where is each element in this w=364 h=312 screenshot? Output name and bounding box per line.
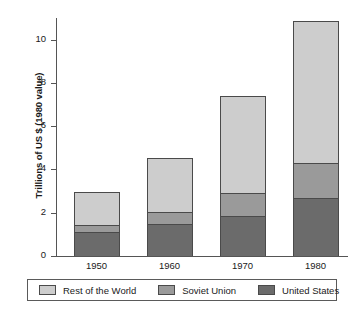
bar-1970[interactable] <box>220 96 266 256</box>
legend-label-rest-of-the-world: Rest of the World <box>63 285 136 296</box>
bar-segment-united-states[interactable] <box>220 216 266 256</box>
bar-segment-soviet-union[interactable] <box>220 193 266 216</box>
bar-segment-rest-of-the-world[interactable] <box>147 158 193 212</box>
y-tick-mark <box>51 256 56 257</box>
legend-label-soviet-union: Soviet Union <box>182 285 236 296</box>
bar-1960[interactable] <box>147 158 193 256</box>
plot-area: 0246810 1950196019701980 <box>56 18 348 256</box>
y-tick-mark <box>51 126 56 127</box>
legend-swatch-soviet-union <box>158 285 175 295</box>
chart-legend: Rest of the World Soviet Union United St… <box>27 279 337 301</box>
legend-swatch-rest-of-the-world <box>39 285 56 295</box>
y-tick-label: 6 <box>22 119 46 131</box>
bar-segment-rest-of-the-world[interactable] <box>220 96 266 193</box>
y-tick-mark <box>51 213 56 214</box>
y-tick-label: 10 <box>22 33 46 45</box>
legend-item-rest-of-the-world[interactable]: Rest of the World <box>39 285 136 296</box>
bar-segment-united-states[interactable] <box>293 198 339 256</box>
bar-segment-soviet-union[interactable] <box>147 212 193 224</box>
x-axis-line <box>56 256 348 257</box>
y-tick-mark <box>51 40 56 41</box>
bar-segment-soviet-union[interactable] <box>293 163 339 198</box>
x-axis-label-1950: 1950 <box>74 260 120 271</box>
bar-segment-united-states[interactable] <box>74 232 120 256</box>
bar-1980[interactable] <box>293 21 339 256</box>
x-axis-label-1960: 1960 <box>147 260 193 271</box>
y-tick-label: 0 <box>22 249 46 261</box>
x-axis-label-1980: 1980 <box>293 260 339 271</box>
legend-item-soviet-union[interactable]: Soviet Union <box>158 285 236 296</box>
bar-segment-united-states[interactable] <box>147 224 193 256</box>
bar-segment-rest-of-the-world[interactable] <box>293 21 339 163</box>
y-tick-mark <box>51 169 56 170</box>
y-axis-line <box>56 18 57 256</box>
bar-segment-soviet-union[interactable] <box>74 225 120 233</box>
bar-segment-rest-of-the-world[interactable] <box>74 192 120 224</box>
legend-item-united-states[interactable]: United States <box>258 285 339 296</box>
y-tick-label: 8 <box>22 76 46 88</box>
y-tick-mark <box>51 83 56 84</box>
stacked-bar-chart: Trillions of US $ (1980 value) 0246810 1… <box>0 0 364 312</box>
legend-swatch-united-states <box>258 285 275 295</box>
legend-label-united-states: United States <box>282 285 339 296</box>
y-tick-label: 4 <box>22 162 46 174</box>
bar-1950[interactable] <box>74 192 120 256</box>
x-axis-label-1970: 1970 <box>220 260 266 271</box>
y-tick-label: 2 <box>22 206 46 218</box>
